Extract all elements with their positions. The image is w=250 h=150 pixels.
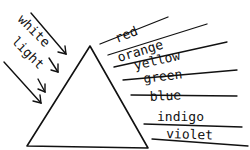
arrow-icon (49, 58, 58, 72)
arrow-icon (38, 79, 45, 92)
color-label-red: red (113, 23, 140, 46)
color-label-indigo: indigo (157, 109, 204, 124)
color-label-blue: blue (149, 87, 181, 104)
color-label-violet: violet (166, 126, 213, 143)
prism-diagram: white light red orange yellow green blue… (0, 0, 250, 150)
